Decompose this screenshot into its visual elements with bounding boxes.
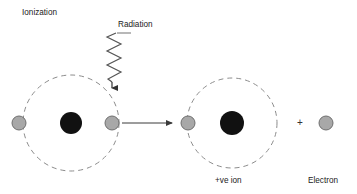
plus-sign: + — [297, 117, 303, 128]
positive-ion-atom — [181, 78, 277, 168]
ionization-diagram: Ionization Radiation + +ve ion Electron — [0, 0, 357, 194]
radiation-zigzag-icon — [107, 33, 121, 82]
label-radiation: Radiation — [118, 20, 153, 29]
bound-electron-left — [12, 116, 26, 130]
struck-electron — [105, 116, 119, 130]
nucleus-neutral-atom — [60, 112, 82, 134]
radiation-wave — [107, 33, 131, 88]
free-electron — [319, 116, 333, 130]
label-positive-ion: +ve ion — [215, 176, 242, 185]
neutral-atom — [12, 75, 119, 171]
bound-electron-ion-left — [181, 116, 195, 130]
nucleus-positive-ion — [220, 111, 244, 135]
label-ionization: Ionization — [22, 8, 57, 17]
label-electron: Electron — [308, 176, 338, 185]
ionization-diagram-canvas: Ionization Radiation + +ve ion Electron — [0, 0, 357, 194]
